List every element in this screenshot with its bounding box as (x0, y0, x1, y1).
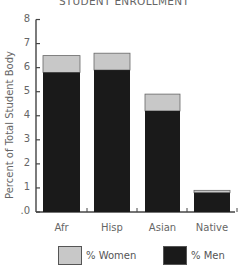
legend-swatch-men (163, 246, 187, 265)
bar-women (43, 56, 80, 73)
bar-women (145, 94, 180, 111)
x-category-label: Hisp (87, 222, 137, 233)
chart-container: STUDENT ENROLLMENT Percent of Total Stud… (0, 0, 240, 271)
x-category-label: Afr (37, 222, 87, 233)
legend-label-men: % Men (191, 250, 225, 261)
bar-women (94, 53, 130, 70)
bar-men (43, 72, 80, 212)
bar-men (145, 111, 180, 212)
legend-swatch-women (58, 246, 82, 265)
legend-label-women: % Women (86, 250, 136, 261)
bar-men (94, 70, 130, 212)
bar-women (194, 190, 230, 192)
x-category-label: Native (187, 222, 237, 233)
bar-men (194, 193, 230, 212)
x-category-label: Asian (138, 222, 188, 233)
